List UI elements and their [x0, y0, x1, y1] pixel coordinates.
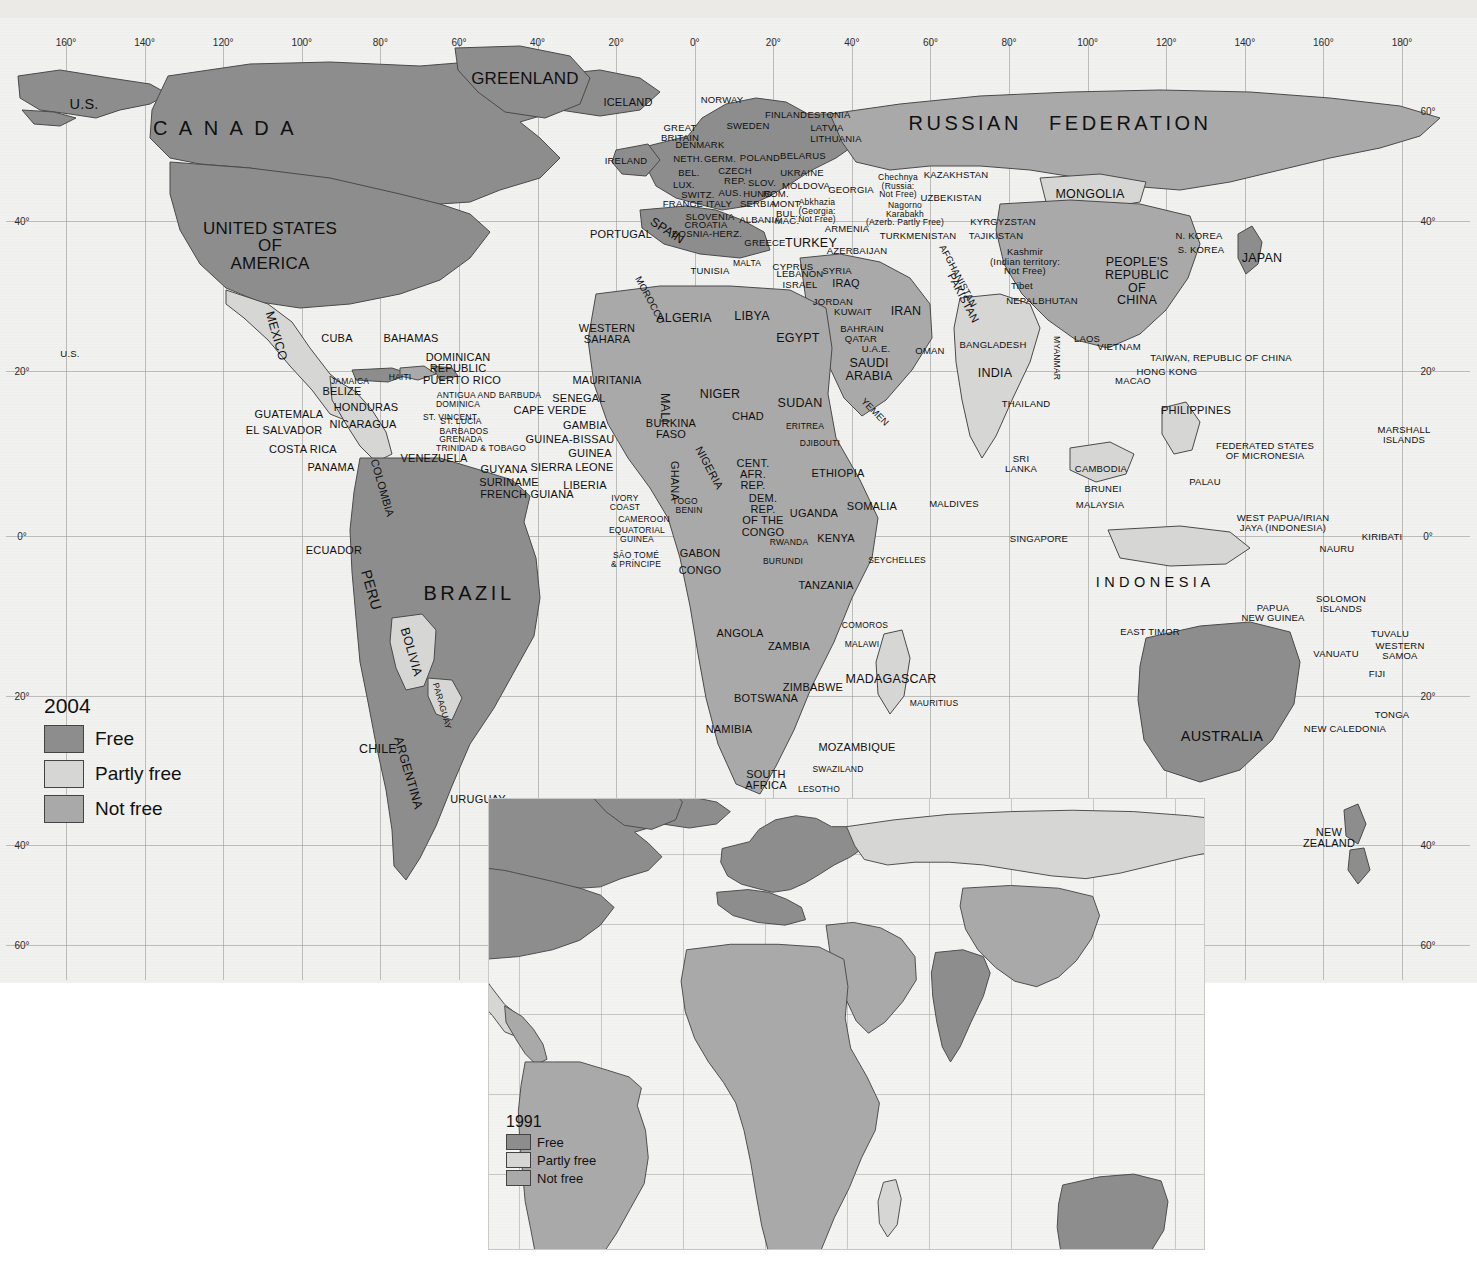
map-label-germ: GERM.: [704, 154, 736, 164]
map-label-brazil: BRAZIL: [423, 583, 514, 603]
map-label-cameroon: CAMEROON: [618, 515, 670, 524]
longitude-tick: 180°: [1392, 37, 1413, 48]
map-label-vietnam: VIETNAM: [1097, 342, 1141, 352]
map-label-s-o-tom-pr-ncipe: SÃO TOMÉ & PRÍNCIPE: [611, 551, 661, 568]
latitude-tick-right: 60°: [1420, 106, 1435, 117]
map-label-el-salvador: EL SALVADOR: [246, 425, 323, 436]
map-label-comoros: COMOROS: [842, 621, 888, 630]
map-label-jamaica: JAMAICA: [331, 377, 369, 386]
longitude-tick: 120°: [1156, 37, 1177, 48]
latitude-tick-right: 40°: [1420, 840, 1435, 851]
map-label-papua-new-guinea: PAPUA NEW GUINEA: [1241, 603, 1304, 622]
map-label-tanzania: TANZANIA: [798, 580, 853, 591]
map-label-puerto-rico: PUERTO RICO: [423, 375, 501, 386]
map-label-u-s: U.S.: [60, 349, 79, 359]
map-label-rwanda: RWANDA: [770, 538, 809, 547]
map-label-u-a-e: U.A.E.: [862, 344, 891, 354]
map-label-estonia: ESTONIA: [808, 110, 851, 120]
map-label-senegal: SENEGAL: [552, 393, 605, 404]
map-label-malta: MALTA: [733, 259, 761, 268]
map-label-ethiopia: ETHIOPIA: [812, 468, 865, 479]
map-label-slov: SLOV.: [748, 178, 776, 188]
map-label-dominican-republic: DOMINICAN REPUBLIC: [426, 352, 491, 374]
map-label-suriname: SURINAME: [479, 477, 539, 488]
map-label-serbia: SERBIA: [740, 199, 776, 209]
map-label-palau: PALAU: [1189, 477, 1220, 487]
map-label-greece: GREECE: [744, 238, 785, 248]
map-label-maldives: MALDIVES: [929, 499, 979, 509]
map-label-angola: ANGOLA: [716, 628, 763, 639]
map-label-united-states-of-america: UNITED STATES OF AMERICA: [203, 220, 337, 272]
legend-swatch-free: [44, 725, 84, 753]
map-label-singapore: SINGAPORE: [1010, 534, 1068, 544]
map-label-mauritania: MAURITANIA: [572, 375, 641, 386]
map-label-thailand: THAILAND: [1002, 399, 1051, 409]
map-label-malawi: MALAWI: [845, 640, 879, 649]
map-label-french-guiana: FRENCH GUIANA: [480, 489, 574, 500]
map-label-st-lucia: ST. LUCIA: [440, 417, 481, 426]
map-label-tunisia: TUNISIA: [691, 266, 730, 276]
map-label-botswana: BOTSWANA: [734, 693, 798, 704]
map-label-i-n-d-o-n-e-s-i-a: I N D O N E S I A: [1096, 575, 1211, 590]
map-label-belize: BELIZE: [322, 386, 361, 397]
map-label-mauritius: MAURITIUS: [910, 699, 959, 708]
map-label-sweden: SWEDEN: [727, 121, 770, 131]
map-label-costa-rica: COSTA RICA: [269, 444, 337, 455]
longitude-tick: 40°: [844, 37, 859, 48]
map-label-finland: FINLAND: [765, 110, 807, 120]
map-label-moldova: MOLDOVA: [782, 181, 830, 191]
latitude-tick-right: 60°: [1420, 940, 1435, 951]
map-label-s-korea: S. KOREA: [1178, 245, 1224, 255]
latitude-tick-right: 0°: [1423, 531, 1433, 542]
map-label-kyrgyzstan: KYRGYZSTAN: [970, 217, 1036, 227]
map-label-gambia: GAMBIA: [563, 420, 607, 431]
map-label-nicaragua: NICARAGUA: [329, 419, 396, 430]
map-label-somalia: SOMALIA: [847, 501, 897, 512]
map-label-kenya: KENYA: [817, 533, 854, 544]
legend-label-free: Free: [95, 728, 134, 750]
legend-2004-row-partly-free: Partly free: [44, 760, 244, 788]
map-label-djibouti: DJIBOUTI: [800, 439, 840, 448]
map-label-bel: BEL.: [678, 168, 699, 178]
map-label-panama: PANAMA: [308, 462, 355, 473]
map-label-south-africa: SOUTH AFRICA: [745, 769, 787, 791]
map-label-egypt: EGYPT: [776, 332, 819, 345]
map-label-vanuatu: VANUATU: [1313, 649, 1358, 659]
map-label-portugal: PORTUGAL: [590, 229, 652, 240]
map-label-taiwan-republic-of-china: TAIWAN, REPUBLIC OF CHINA: [1150, 353, 1292, 363]
map-label-fiji: FIJI: [1369, 669, 1386, 679]
map-label-madagascar: MADAGASCAR: [846, 673, 937, 686]
map-label-uganda: UGANDA: [790, 508, 838, 519]
latitude-tick-left: 40°: [14, 216, 29, 227]
map-label-u-s: U.S.: [70, 97, 99, 112]
map-label-latvia: LATVIA: [810, 123, 843, 133]
legend-1991-swatch-partly-free: [506, 1152, 531, 1168]
legend-2004-row-not-free: Not free: [44, 795, 244, 823]
latitude-tick-left: 0°: [17, 531, 27, 542]
longitude-tick: 80°: [373, 37, 388, 48]
map-label-japan: JAPAN: [1242, 252, 1282, 265]
map-label-ecuador: ECUADOR: [306, 545, 362, 556]
map-label-tajikistan: TAJIKISTAN: [969, 231, 1023, 241]
map-label-western-samoa: WESTERN SAMOA: [1376, 641, 1425, 660]
latitude-tick-right: 40°: [1420, 216, 1435, 227]
map-label-kiribati: KIRIBATI: [1362, 532, 1403, 542]
map-label-niger: NIGER: [700, 388, 741, 401]
map-label-macao: MACAO: [1115, 376, 1151, 386]
map-label-dem-rep-of-the-congo: DEM. REP. OF THE CONGO: [742, 493, 785, 538]
legend-1991-label-partly-free: Partly free: [537, 1153, 596, 1168]
map-label-west-papua-irian-jaya-indonesia: WEST PAPUA/IRIAN JAYA (INDONESIA): [1237, 513, 1330, 532]
map-label-turkey: TURKEY: [785, 237, 837, 250]
longitude-tick: 60°: [451, 37, 466, 48]
legend-1991-row-not-free: Not free: [506, 1170, 646, 1186]
map-label-guyana: GUYANA: [481, 464, 528, 475]
map-label-ireland: IRELAND: [605, 156, 648, 166]
map-label-russian-federation: RUSSIAN FEDERATION: [909, 113, 1212, 133]
legend-1991-row-partly-free: Partly free: [506, 1152, 646, 1168]
legend-2004: 2004 Free Partly free Not free: [44, 694, 244, 830]
map-label-marshall-islands: MARSHALL ISLANDS: [1378, 425, 1431, 444]
map-label-malaysia: MALAYSIA: [1076, 500, 1124, 510]
map-label-congo: CONGO: [679, 565, 722, 576]
legend-label-partly-free: Partly free: [95, 763, 182, 785]
legend-1991-row-free: Free: [506, 1134, 646, 1150]
